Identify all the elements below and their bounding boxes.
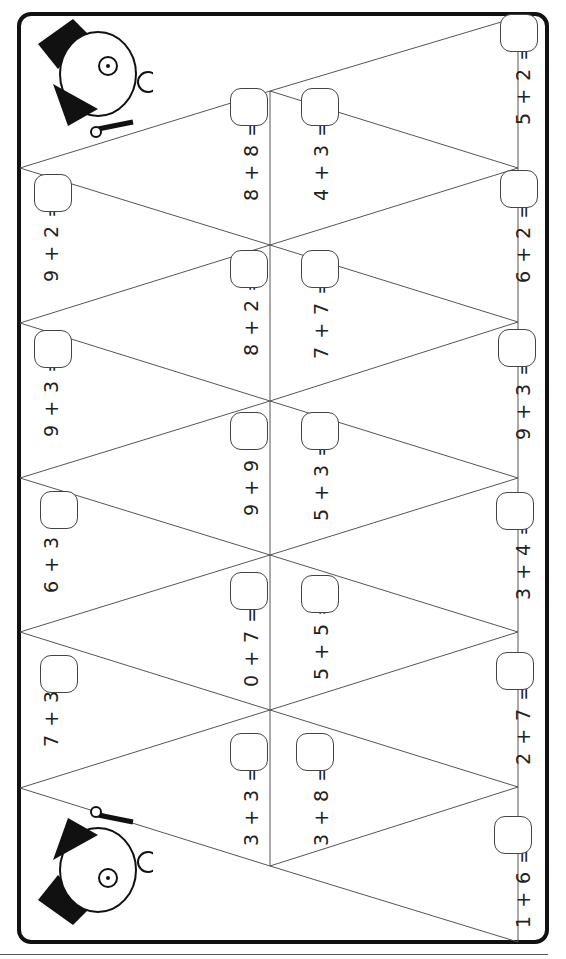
answer-box[interactable] [230, 412, 268, 450]
equation-label: 5 + 2 = [514, 44, 533, 125]
answer-box[interactable] [230, 733, 268, 771]
answer-box[interactable] [34, 174, 72, 212]
answer-box[interactable] [34, 330, 72, 368]
answer-box[interactable] [496, 652, 534, 690]
equation-label: 6 + 2 = [514, 202, 533, 283]
answer-box[interactable] [230, 88, 268, 126]
worksheet: 9 + 2 =9 + 3 =6 + 3 =7 + 3 =8 + 8 =8 + 2… [0, 0, 566, 959]
answer-box[interactable] [498, 329, 536, 367]
answer-box[interactable] [494, 816, 532, 854]
equation-label: 9 + 3 = [514, 359, 533, 440]
dog-top-hat-icon [28, 790, 153, 930]
equation-label: 5 + 3 = [312, 440, 331, 521]
answer-box[interactable] [230, 250, 268, 288]
equation-label: 3 + 8 = [312, 765, 331, 846]
equation-label: 0 + 7 = [242, 606, 261, 687]
answer-box[interactable] [301, 88, 339, 126]
answer-box[interactable] [301, 250, 339, 288]
answer-box[interactable] [496, 492, 534, 530]
answer-box[interactable] [230, 572, 268, 610]
equation-label: 2 + 7 = [514, 684, 533, 765]
equation-label: 1 + 6 = [514, 847, 533, 928]
answer-box[interactable] [40, 491, 78, 529]
answer-box[interactable] [301, 412, 339, 450]
equation-label: 8 + 8 = [242, 120, 261, 201]
answer-box[interactable] [40, 655, 78, 693]
equation-label: 7 + 7 = [312, 278, 331, 359]
answer-box[interactable] [500, 170, 538, 208]
equation-label: 9 + 3 = [42, 356, 61, 437]
answer-box[interactable] [296, 733, 334, 771]
answer-box[interactable] [500, 14, 538, 52]
answer-box[interactable] [301, 575, 339, 613]
equation-label: 9 + 2 = [42, 201, 61, 282]
equation-label: 3 + 3 = [242, 765, 261, 846]
equation-label: 3 + 4 = [514, 519, 533, 600]
dog-top-hat-icon [28, 14, 153, 144]
equation-label: 4 + 3 = [312, 120, 331, 201]
